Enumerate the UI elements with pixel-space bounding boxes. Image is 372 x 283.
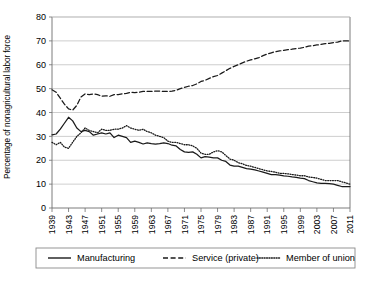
- x-tick-label: 1955: [113, 215, 123, 234]
- x-tick-label: 1959: [130, 215, 140, 234]
- x-tick-label: 1939: [47, 215, 57, 234]
- x-tick-label: 1967: [163, 215, 173, 234]
- legend-label: Service (private): [192, 253, 259, 263]
- y-tick-label: 60: [36, 60, 46, 70]
- x-tick-label: 2011: [345, 215, 355, 234]
- x-tick-label: 1951: [97, 215, 107, 234]
- x-tick-label: 1947: [80, 215, 90, 234]
- y-tick-label: 10: [36, 179, 46, 189]
- series-line-service-private: [52, 41, 350, 110]
- y-tick-label: 0: [41, 203, 46, 213]
- x-tick-label: 1943: [64, 215, 74, 234]
- x-tick-label: 1971: [180, 215, 190, 234]
- y-tick-label: 40: [36, 108, 46, 118]
- plot-container: 0102030405060708019391943194719511955195…: [0, 0, 372, 283]
- x-tick-label: 1975: [196, 215, 206, 234]
- y-tick-label: 80: [36, 12, 46, 22]
- x-tick-label: 1987: [246, 215, 256, 234]
- x-tick-label: 2007: [329, 215, 339, 234]
- x-tick-label: 1999: [296, 215, 306, 234]
- legend-label: Member of union: [286, 253, 355, 263]
- chart-figure: Percentage of nonagricultural labor forc…: [0, 0, 372, 283]
- line-chart: 0102030405060708019391943194719511955195…: [0, 0, 372, 283]
- x-tick-label: 1963: [147, 215, 157, 234]
- y-tick-label: 70: [36, 36, 46, 46]
- x-tick-label: 2003: [312, 215, 322, 234]
- legend-label: Manufacturing: [77, 253, 135, 263]
- x-tick-label: 1991: [262, 215, 272, 234]
- y-tick-label: 20: [36, 155, 46, 165]
- x-tick-label: 1995: [279, 215, 289, 234]
- x-tick-label: 1983: [229, 215, 239, 234]
- x-tick-label: 1979: [213, 215, 223, 234]
- y-tick-label: 50: [36, 84, 46, 94]
- y-tick-label: 30: [36, 132, 46, 142]
